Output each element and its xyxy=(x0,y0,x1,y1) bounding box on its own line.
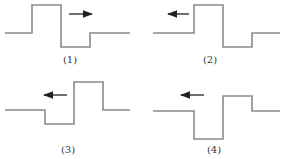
waveform-1 xyxy=(5,5,130,47)
panel-label-3: (3) xyxy=(61,144,75,155)
wave-pulse-diagram: (1) (2) (3) (4) xyxy=(0,0,286,159)
waveform-3 xyxy=(5,82,130,124)
waveform-2 xyxy=(153,5,280,47)
diagram-canvas xyxy=(0,0,286,159)
panel-label-1: (1) xyxy=(63,54,77,65)
panel-label-4: (4) xyxy=(207,144,221,155)
waveform-4 xyxy=(153,96,280,139)
panel-label-2: (2) xyxy=(203,54,217,65)
